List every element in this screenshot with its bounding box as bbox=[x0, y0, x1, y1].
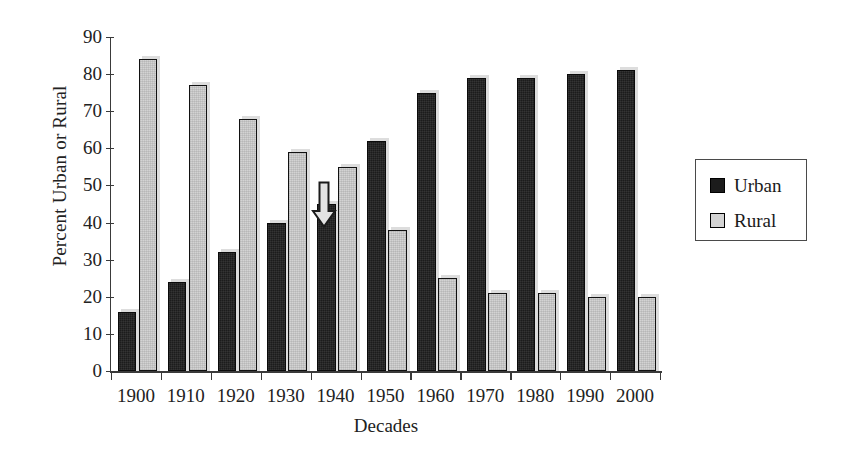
x-axis-title: Decades bbox=[110, 415, 662, 437]
y-axis-tick-label: 0 bbox=[68, 361, 102, 380]
y-axis-tick-label: 90 bbox=[68, 27, 102, 46]
bar-urban-1970 bbox=[467, 78, 486, 371]
x-axis-tick-mark bbox=[560, 371, 561, 380]
legend-item-rural: Rural bbox=[710, 211, 776, 230]
x-axis-tick-label: 2000 bbox=[605, 385, 665, 407]
y-axis-tick-label: 40 bbox=[68, 213, 102, 232]
bar-urban-1940 bbox=[317, 204, 336, 371]
bar-rural-1920 bbox=[239, 119, 258, 371]
y-axis-tick-label: 50 bbox=[68, 175, 102, 194]
legend-item-urban: Urban bbox=[710, 176, 781, 195]
legend-swatch-urban-icon bbox=[710, 178, 725, 193]
bar-urban-1990 bbox=[567, 74, 586, 371]
legend-swatch-rural-icon bbox=[710, 213, 725, 228]
x-axis-tick-mark bbox=[311, 371, 312, 380]
bar-rural-1960 bbox=[438, 278, 457, 371]
bar-chart-figure: Percent Urban or Rural 01020304050607080… bbox=[0, 0, 843, 453]
legend-label: Rural bbox=[734, 211, 776, 230]
bar-urban-1950 bbox=[367, 141, 386, 371]
legend-label: Urban bbox=[734, 176, 781, 195]
x-axis-line bbox=[110, 371, 662, 373]
y-axis-tick-label: 10 bbox=[68, 324, 102, 343]
bar-rural-1900 bbox=[139, 59, 158, 371]
bar-rural-1990 bbox=[588, 297, 607, 371]
x-axis-tick-mark bbox=[211, 371, 212, 380]
bar-urban-1920 bbox=[218, 252, 237, 371]
bar-rural-1950 bbox=[388, 230, 407, 371]
x-axis-tick-mark bbox=[610, 371, 611, 380]
legend: UrbanRural bbox=[695, 159, 807, 241]
x-axis-tick-mark bbox=[111, 371, 112, 380]
plot-area bbox=[111, 37, 660, 371]
bar-urban-1900 bbox=[118, 312, 137, 371]
bar-urban-1980 bbox=[517, 78, 536, 371]
bar-urban-2000 bbox=[617, 70, 636, 371]
down-arrow-annotation-icon bbox=[311, 181, 337, 228]
x-axis-tick-mark bbox=[460, 371, 461, 380]
bar-urban-1910 bbox=[168, 282, 187, 371]
y-axis-tick-label: 80 bbox=[68, 64, 102, 83]
y-axis-tick-label: 20 bbox=[68, 287, 102, 306]
bar-rural-1930 bbox=[288, 152, 307, 371]
x-axis-tick-mark bbox=[361, 371, 362, 380]
bar-rural-1980 bbox=[538, 293, 557, 371]
bar-urban-1960 bbox=[417, 93, 436, 371]
bar-rural-1910 bbox=[189, 85, 208, 371]
bar-rural-1940 bbox=[338, 167, 357, 371]
x-axis-tick-mark bbox=[161, 371, 162, 380]
x-axis-tick-mark bbox=[261, 371, 262, 380]
bar-rural-2000 bbox=[638, 297, 657, 371]
y-axis-tick-label: 30 bbox=[68, 250, 102, 269]
y-axis-tick-label: 70 bbox=[68, 101, 102, 120]
y-axis-tick-mark bbox=[106, 371, 114, 372]
x-axis-tick-mark bbox=[510, 371, 511, 380]
y-axis-tick-label: 60 bbox=[68, 138, 102, 157]
bar-urban-1930 bbox=[267, 223, 286, 371]
x-axis-tick-mark bbox=[660, 371, 661, 380]
bar-rural-1970 bbox=[488, 293, 507, 371]
x-axis-tick-mark bbox=[410, 371, 411, 380]
